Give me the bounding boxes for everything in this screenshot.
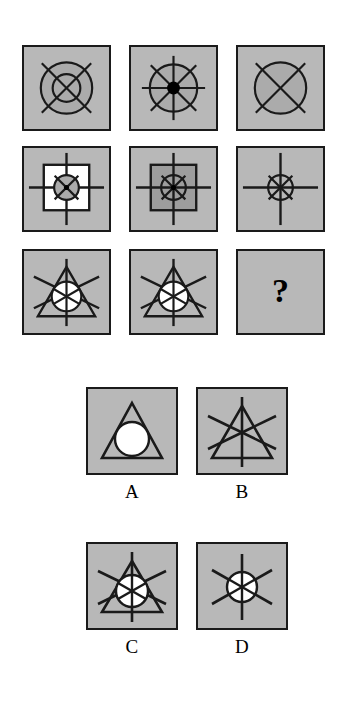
figure-triangle-circle-star [131, 251, 216, 333]
matrix-reasoning-puzzle: ? A B [0, 0, 347, 728]
matrix-cell-row2-col2 [129, 146, 218, 232]
matrix-cell-missing: ? [236, 249, 325, 335]
answer-option-b[interactable]: B [196, 387, 288, 503]
answer-option-d-panel[interactable] [196, 542, 288, 630]
answer-option-c-label: C [86, 636, 178, 658]
matrix-cell-row1-col2 [129, 45, 218, 131]
question-mark: ? [238, 251, 323, 333]
figure-white-square-star-circle [24, 148, 109, 230]
matrix-cell-row2-col3 [236, 146, 325, 232]
figure-circle-star [198, 544, 286, 628]
answer-option-a[interactable]: A [86, 387, 178, 503]
answer-option-c-panel[interactable] [86, 542, 178, 630]
figure-triangle-circle-star [88, 544, 176, 628]
answer-option-b-panel[interactable] [196, 387, 288, 475]
answer-option-d-label: D [196, 636, 288, 658]
figure-circle-x [238, 47, 323, 129]
answer-option-b-label: B [196, 481, 288, 503]
matrix-cell-row3-col1 [22, 249, 111, 335]
figure-gray-square-star-circle [131, 148, 216, 230]
figure-concentric-circles-x [24, 47, 109, 129]
answer-option-c[interactable]: C [86, 542, 178, 658]
matrix-cell-row3-col2 [129, 249, 218, 335]
answer-option-a-panel[interactable] [86, 387, 178, 475]
figure-triangle-plain-circle [88, 389, 176, 473]
matrix-grid: ? [22, 45, 325, 345]
figure-circle-star-dot [131, 47, 216, 129]
answer-option-a-label: A [86, 481, 178, 503]
matrix-cell-row2-col1 [22, 146, 111, 232]
answer-option-d[interactable]: D [196, 542, 288, 658]
matrix-cell-row1-col3 [236, 45, 325, 131]
matrix-cell-row1-col1 [22, 45, 111, 131]
figure-triangle-star [198, 389, 286, 473]
figure-star-circle-cross [238, 148, 323, 230]
figure-triangle-circle-star [24, 251, 109, 333]
